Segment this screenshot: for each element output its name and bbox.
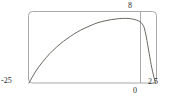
x-axis-zero-label: 0 xyxy=(133,86,137,95)
y-axis-max-label: 8 xyxy=(128,1,132,10)
x-axis-min-label: -25 xyxy=(1,76,12,85)
data-curve xyxy=(29,18,156,83)
x-axis-max-label: 2.5 xyxy=(148,77,158,86)
plot-frame xyxy=(29,12,157,84)
plot-container: 8 -25 0 2.5 xyxy=(0,0,170,100)
plot-canvas xyxy=(0,0,170,100)
